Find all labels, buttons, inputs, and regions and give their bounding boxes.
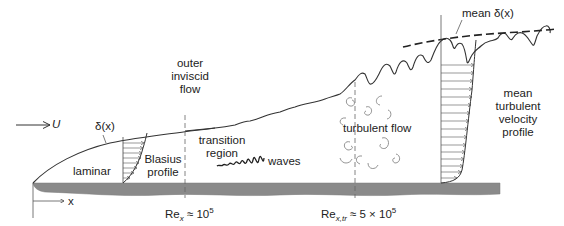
turbulent-boundary-edge (379, 26, 550, 74)
delta-leader-line (103, 135, 106, 143)
freestream-velocity-label: U (52, 118, 60, 131)
waves-label: waves (268, 155, 301, 168)
blasius-profile-label: Blasius profile (142, 153, 184, 179)
x-axis-label: x (68, 195, 74, 208)
turbulent-flow-label: turbulent flow (343, 122, 411, 135)
delta-x-label: δ(x) (95, 120, 115, 133)
mean-delta-label: mean δ(x) (462, 7, 514, 20)
flat-plate (33, 183, 500, 196)
re-critical-label: Rex ≈ 105 (165, 204, 214, 225)
mean-turbulent-velocity-profile-label: mean turbulent velocity profile (488, 87, 548, 139)
turbulent-velocity-profile (441, 15, 476, 183)
laminar-boundary-edge (33, 128, 215, 183)
laminar-label: laminar (73, 165, 111, 178)
outer-inviscid-flow-label: outer inviscid flow (168, 57, 212, 96)
mean-delta-leader-line (456, 20, 462, 34)
transition-region-label: transition region (196, 134, 248, 160)
mean-delta-dashed-line (403, 29, 556, 47)
re-transition-label: Rex,tr ≈ 5 × 105 (321, 204, 396, 225)
boundary-layer-diagram (0, 0, 564, 226)
